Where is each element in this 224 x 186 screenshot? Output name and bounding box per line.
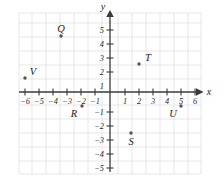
point-label-R: R (70, 108, 78, 119)
x-tick-label-pos4: 4 (165, 97, 169, 106)
x-tick-label-pos5: 5 (179, 97, 183, 106)
y-axis-label: y (100, 1, 106, 12)
y-tick-label-neg2: −2 (94, 122, 104, 131)
figure-background (0, 0, 224, 186)
x-tick-label-neg6: −6 (20, 97, 31, 106)
point-label-Q: Q (57, 23, 65, 34)
x-tick-label-neg3: −3 (62, 97, 72, 106)
y-tick-label-neg3: −3 (94, 136, 104, 145)
coordinate-plane-svg: −6 −5 −4 −3 −2 −1 1 2 3 4 5 6 5 4 3 2 1 … (0, 0, 224, 186)
y-tick-label-pos3: 3 (99, 54, 104, 63)
y-tick-label-pos5: 5 (100, 26, 104, 35)
x-tick-label-neg2: −2 (76, 97, 86, 106)
point-dot-R (80, 104, 83, 107)
x-axis-label: x (206, 86, 212, 97)
coordinate-plane-figure: −6 −5 −4 −3 −2 −1 1 2 3 4 5 6 5 4 3 2 1 … (0, 0, 224, 186)
point-label-S: S (128, 136, 134, 147)
x-tick-label-pos2: 2 (137, 97, 141, 106)
point-dot-T (137, 62, 140, 65)
y-tick-label-pos1: 1 (100, 82, 104, 91)
y-tick-label-pos4: 4 (100, 40, 104, 49)
x-tick-label-neg4: −4 (48, 97, 58, 106)
point-dot-U (179, 104, 182, 107)
x-tick-label-pos3: 3 (150, 97, 155, 106)
point-dot-Q (59, 34, 62, 37)
point-dot-S (129, 131, 132, 134)
x-tick-label-neg1: −1 (90, 97, 100, 106)
x-tick-label-pos1: 1 (123, 97, 127, 106)
y-tick-label-pos2: 2 (100, 68, 104, 77)
y-tick-label-neg1: −1 (94, 108, 104, 117)
point-dot-V (23, 76, 26, 79)
y-tick-label-neg5: −5 (94, 164, 104, 173)
y-tick-label-neg4: −4 (94, 150, 104, 159)
x-tick-label-neg5: −5 (34, 97, 44, 106)
